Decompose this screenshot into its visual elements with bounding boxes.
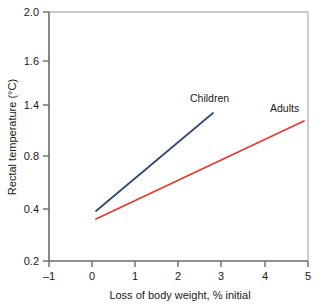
chart-figure: 2.0 1.6 1.4 0.8 0.4 0.2 –1 0 1 2 3 4 5 L… — [0, 0, 322, 305]
x-tick-label-6: 5 — [305, 270, 311, 282]
y-tick-label-3: 1.4 — [24, 99, 39, 111]
x-tick-label-1: 0 — [89, 270, 95, 282]
series-line-children — [96, 113, 213, 211]
line-chart: 2.0 1.6 1.4 0.8 0.4 0.2 –1 0 1 2 3 4 5 L… — [0, 0, 322, 305]
x-axis-ticks — [49, 261, 308, 267]
y-tick-label-4: 1.6 — [24, 55, 39, 67]
y-tick-label-1: 0.4 — [24, 203, 39, 215]
x-tick-label-5: 4 — [262, 270, 268, 282]
x-axis-title: Loss of body weight, % initial — [109, 289, 250, 301]
series-label-adults: Adults — [270, 102, 299, 114]
y-axis-ticks — [43, 12, 49, 261]
x-tick-label-2: 1 — [132, 270, 138, 282]
y-axis-title: Rectal temperature (°C) — [6, 79, 18, 195]
x-tick-label-3: 2 — [175, 270, 181, 282]
x-tick-label-0: –1 — [43, 270, 55, 282]
series-line-adults — [96, 121, 304, 219]
series-label-children: Children — [190, 92, 229, 104]
y-tick-label-2: 0.8 — [24, 150, 39, 162]
y-tick-label-5: 2.0 — [24, 6, 39, 18]
x-tick-label-4: 3 — [218, 270, 224, 282]
y-tick-label-0: 0.2 — [24, 255, 39, 267]
